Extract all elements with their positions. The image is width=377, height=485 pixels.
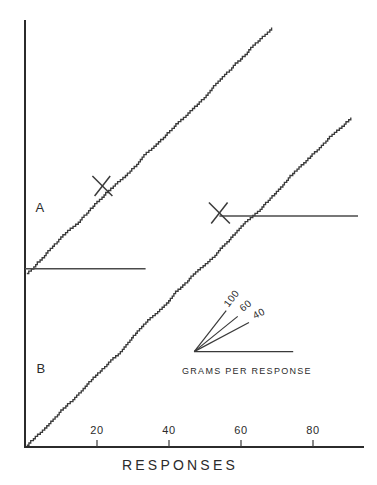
x-tick-label-40: 40 bbox=[162, 424, 175, 436]
curve-a-label: A bbox=[35, 200, 44, 215]
curve-b-label: B bbox=[36, 361, 45, 376]
cumulative-record-chart: 20 40 60 80 RESPONSES A B 100 60 40 GRAM… bbox=[0, 0, 377, 485]
legend-title: GRAMS PER RESPONSE bbox=[182, 366, 312, 376]
x-tick-label-60: 60 bbox=[234, 424, 247, 436]
x-axis-title: RESPONSES bbox=[122, 457, 238, 473]
x-tick-label-80: 80 bbox=[306, 424, 319, 436]
x-tick-label-20: 20 bbox=[90, 424, 103, 436]
